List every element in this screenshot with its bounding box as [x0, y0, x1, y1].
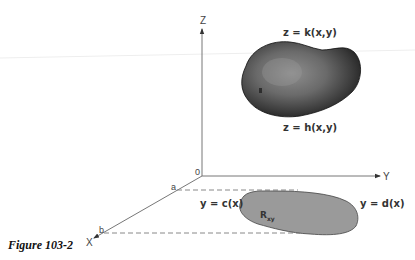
solid-highlight: [262, 58, 302, 86]
region-label-sub: xy: [267, 215, 275, 223]
x-axis: [94, 176, 202, 238]
region-label-main: R: [260, 210, 267, 220]
region-rxy: [240, 191, 358, 235]
x-axis-label: X: [86, 237, 93, 248]
upper-surface-label: z = k(x,y): [283, 27, 337, 38]
tick-a-label: a: [171, 182, 176, 192]
origin-label: 0: [195, 167, 200, 177]
lower-surface-label: z = h(x,y): [283, 122, 337, 133]
z-axis-label: Z: [200, 15, 206, 26]
figure-caption: Figure 103-2: [7, 238, 73, 252]
figure-103-2: Z Y X 0 a b z = k(x,y) z = h(x,y) Rxy y …: [0, 0, 415, 260]
right-boundary-label: y = d(x): [360, 198, 405, 209]
solid-body: [242, 42, 361, 117]
y-axis-label: Y: [383, 171, 390, 182]
solid-mark: [259, 88, 262, 93]
left-boundary-label: y = c(x): [200, 198, 243, 209]
tick-b-label: b: [99, 225, 104, 235]
